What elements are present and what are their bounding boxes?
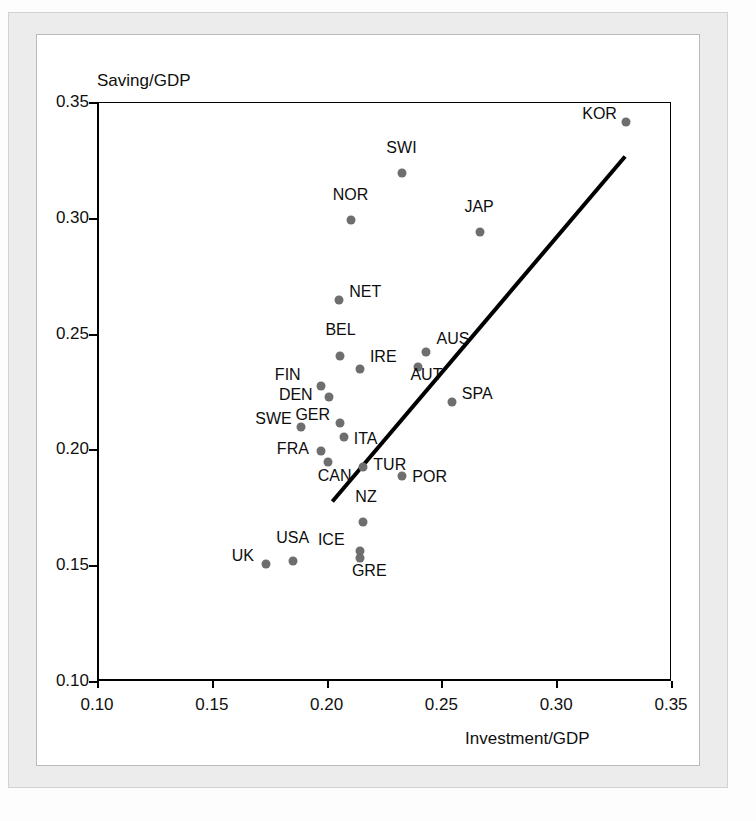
data-point-label-swi: SWI: [386, 139, 416, 157]
data-point-label-gre: GRE: [352, 562, 387, 580]
data-point-nz: [359, 518, 368, 527]
data-point-swi: [398, 168, 407, 177]
figure-card: Saving/GDP 0.350.300.250.200.150.10 0.10…: [36, 34, 700, 766]
data-point-label-usa: USA: [276, 529, 309, 547]
data-point-label-por: POR: [412, 468, 447, 486]
data-point-label-net: NET: [349, 283, 381, 301]
data-point-swe: [297, 423, 306, 432]
data-point-label-uk: UK: [232, 547, 254, 565]
x-tick-label: 0.10: [80, 695, 113, 715]
data-point-nor: [346, 216, 355, 225]
y-tick-label: 0.25: [56, 324, 89, 344]
x-tick-label: 0.20: [310, 695, 343, 715]
x-tick-mark: [327, 681, 329, 688]
scatter-chart: Saving/GDP 0.350.300.250.200.150.10 0.10…: [37, 35, 701, 767]
y-tick-mark: [89, 449, 97, 451]
data-point-label-nor: NOR: [333, 186, 369, 204]
data-point-label-ice: ICE: [318, 531, 345, 549]
data-point-label-bel: BEL: [325, 321, 355, 339]
y-tick-mark: [89, 102, 97, 104]
data-point-bel: [336, 351, 345, 360]
screenshot-root: Saving/GDP 0.350.300.250.200.150.10 0.10…: [0, 0, 756, 821]
data-point-label-ita: ITA: [354, 430, 378, 448]
y-tick-label: 0.15: [56, 555, 89, 575]
y-tick-label: 0.10: [56, 671, 89, 691]
data-point-label-fra: FRA: [277, 440, 309, 458]
data-point-fin: [316, 381, 325, 390]
data-point-label-fin: FIN: [275, 366, 301, 384]
data-point-label-jap: JAP: [464, 198, 493, 216]
y-tick-label: 0.20: [56, 439, 89, 459]
data-point-tur: [359, 462, 368, 471]
data-point-por: [398, 472, 407, 481]
data-point-usa: [289, 556, 298, 565]
y-tick-label: 0.30: [56, 208, 89, 228]
y-tick-mark: [89, 334, 97, 336]
x-tick-mark: [441, 681, 443, 688]
y-tick-mark: [89, 565, 97, 567]
data-point-label-spa: SPA: [462, 385, 493, 403]
y-tick-label: 0.35: [56, 92, 89, 112]
data-point-fra: [316, 446, 325, 455]
data-point-net: [335, 296, 344, 305]
data-point-label-den: DEN: [279, 386, 313, 404]
data-point-spa: [447, 397, 456, 406]
data-point-den: [324, 393, 333, 402]
data-point-ita: [339, 432, 348, 441]
x-tick-label: 0.25: [425, 695, 458, 715]
data-point-kor: [622, 117, 631, 126]
x-tick-mark: [97, 681, 99, 688]
data-point-label-swe: SWE: [255, 410, 291, 428]
data-point-can: [323, 458, 332, 467]
x-tick-mark: [671, 681, 673, 688]
data-point-uk: [261, 560, 270, 569]
x-tick-mark: [556, 681, 558, 688]
y-tick-mark: [89, 218, 97, 220]
data-point-label-aus: AUS: [436, 330, 469, 348]
data-point-label-nz: NZ: [355, 488, 376, 506]
x-tick-label: 0.30: [540, 695, 573, 715]
data-point-label-ire: IRE: [370, 348, 397, 366]
x-tick-label: 0.35: [654, 695, 687, 715]
x-axis-title: Investment/GDP: [465, 729, 590, 749]
data-point-ger: [336, 418, 345, 427]
x-tick-label: 0.15: [195, 695, 228, 715]
y-tick-mark: [89, 681, 97, 683]
data-point-aus: [422, 348, 431, 357]
data-point-label-aut: AUT: [410, 366, 442, 384]
y-axis-title: Saving/GDP: [97, 71, 191, 91]
x-tick-mark: [212, 681, 214, 688]
plot-area: [97, 102, 671, 681]
data-point-ire: [355, 365, 364, 374]
data-point-jap: [476, 227, 485, 236]
data-point-label-ger: GER: [295, 406, 330, 424]
data-point-label-can: CAN: [318, 467, 352, 485]
data-point-label-kor: KOR: [582, 105, 617, 123]
